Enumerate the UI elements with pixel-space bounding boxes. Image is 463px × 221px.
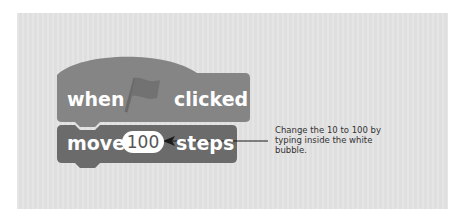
- when-label: when: [67, 90, 125, 109]
- move-label: move: [67, 134, 125, 153]
- steps-input-bubble[interactable]: 100: [122, 131, 164, 153]
- clicked-label: clicked: [174, 90, 248, 109]
- steps-label: steps: [176, 134, 234, 153]
- blocks-graphic: [0, 0, 463, 221]
- annotation-callout: Change the 10 to 100 by typing inside th…: [275, 125, 395, 155]
